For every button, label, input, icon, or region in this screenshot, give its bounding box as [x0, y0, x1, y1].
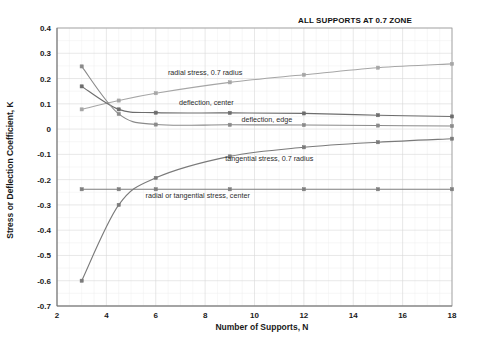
y-tick-label: 0 [47, 125, 52, 134]
x-tick-label: 4 [104, 311, 109, 320]
series-label-4: radial or tangential stress, center [146, 191, 251, 200]
x-tick-label: 18 [448, 311, 457, 320]
chart-title: ALL SUPPORTS AT 0.7 ZONE [298, 16, 412, 25]
y-tick-label: 0.1 [40, 100, 52, 109]
data-point-marker [302, 123, 305, 126]
x-tick-label: 6 [154, 311, 159, 320]
y-tick-label: -0.6 [37, 277, 51, 286]
data-point-marker [154, 176, 157, 179]
y-axis-title: Stress or Deflection Coefficient, K [5, 100, 15, 238]
data-point-marker [302, 188, 305, 191]
data-point-marker [302, 112, 305, 115]
x-tick-label: 12 [299, 311, 308, 320]
y-tick-label: -0.5 [37, 251, 51, 260]
data-point-marker [376, 114, 379, 117]
series-label-2: deflection, edge [241, 115, 292, 124]
data-point-marker [154, 92, 157, 95]
data-point-marker [80, 279, 83, 282]
y-tick-label: 0.3 [40, 49, 52, 58]
data-point-marker [80, 108, 83, 111]
y-tick-label: 0.4 [40, 24, 52, 33]
stress-deflection-coefficient-chart: radial stress, 0.7 radiusdeflection, cen… [0, 0, 480, 337]
data-point-marker [117, 108, 120, 111]
series-label-0: radial stress, 0.7 radius [168, 68, 243, 77]
x-axis-title: Number of Supports, N [215, 322, 308, 332]
data-point-marker [302, 146, 305, 149]
y-tick-label: -0.3 [37, 201, 51, 210]
data-point-marker [154, 123, 157, 126]
data-point-marker [117, 188, 120, 191]
data-point-marker [450, 62, 453, 65]
chart-background [0, 0, 480, 337]
data-point-marker [376, 124, 379, 127]
data-point-marker [228, 111, 231, 114]
x-tick-label: 14 [349, 311, 358, 320]
data-point-marker [228, 81, 231, 84]
data-point-marker [154, 111, 157, 114]
data-point-marker [80, 85, 83, 88]
x-tick-label: 2 [55, 311, 60, 320]
data-point-marker [450, 188, 453, 191]
chart-container: radial stress, 0.7 radiusdeflection, cen… [0, 0, 480, 337]
data-point-marker [302, 73, 305, 76]
x-tick-label: 16 [398, 311, 407, 320]
series-label-1: deflection, center [179, 98, 234, 107]
y-tick-label: -0.2 [37, 176, 51, 185]
data-point-marker [228, 123, 231, 126]
series-label-3: tangential stress, 0.7 radius [225, 154, 313, 163]
data-point-marker [80, 65, 83, 68]
data-point-marker [117, 99, 120, 102]
data-point-marker [376, 141, 379, 144]
y-tick-label: -0.1 [37, 150, 51, 159]
data-point-marker [450, 124, 453, 127]
x-tick-label: 8 [203, 311, 208, 320]
y-tick-label: -0.7 [37, 302, 51, 311]
data-point-marker [450, 115, 453, 118]
data-point-marker [80, 188, 83, 191]
data-point-marker [117, 112, 120, 115]
data-point-marker [376, 188, 379, 191]
data-point-marker [117, 203, 120, 206]
y-tick-label: -0.4 [37, 226, 51, 235]
data-point-marker [376, 66, 379, 69]
data-point-marker [450, 137, 453, 140]
y-tick-label: 0.2 [40, 75, 52, 84]
x-tick-label: 10 [250, 311, 259, 320]
